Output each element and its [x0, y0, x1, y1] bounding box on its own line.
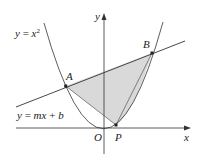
- y-axis-arrow-icon: [102, 13, 107, 20]
- line-equation-label: y = mx + b: [16, 109, 64, 121]
- x-axis-label: x: [183, 131, 189, 143]
- point-A-marker: [64, 85, 67, 88]
- x-axis-arrow-icon: [184, 126, 191, 131]
- origin-label: O: [94, 131, 102, 143]
- point-B-marker: [151, 52, 154, 55]
- point-B-label: B: [143, 38, 150, 50]
- point-P-label: P: [114, 131, 122, 143]
- curve-equation-label: y = x2: [14, 27, 41, 39]
- parabola-triangle-diagram: y x O A B P y = x2 y = mx + b: [0, 0, 203, 163]
- shaded-region: [66, 53, 152, 125]
- point-A-label: A: [65, 70, 73, 82]
- point-P-marker: [115, 124, 118, 127]
- y-axis-label: y: [94, 10, 100, 22]
